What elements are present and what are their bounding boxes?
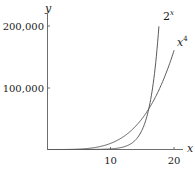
label-exponent: 4 xyxy=(183,35,188,43)
label-exponent: x xyxy=(170,9,174,17)
y-tick-label-200000: 200,000 xyxy=(3,21,44,32)
curve-2-to-x xyxy=(48,26,159,149)
curve-label-x-to-4: x4 xyxy=(177,35,188,49)
chart: 200,000 100,000 10 20 y x 2x x4 xyxy=(0,0,195,171)
x-tick-label-20: 20 xyxy=(168,155,181,166)
x-axis-label: x xyxy=(187,142,194,155)
y-tick-label-100000: 100,000 xyxy=(3,83,44,94)
y-axis-label: y xyxy=(44,2,52,15)
curve-label-2-to-x: 2x xyxy=(163,9,174,23)
chart-svg: 200,000 100,000 10 20 y x 2x x4 xyxy=(0,0,195,171)
label-base: 2 xyxy=(163,10,170,23)
x-tick-label-10: 10 xyxy=(104,155,117,166)
